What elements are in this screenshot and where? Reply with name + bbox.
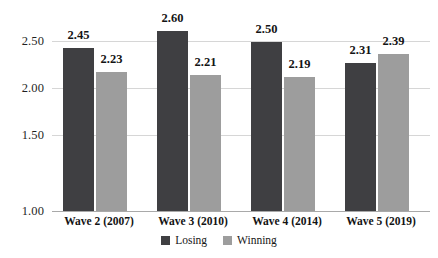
bar-losing-wave-4[interactable] bbox=[251, 42, 282, 211]
y-axis-tick-1-50: 1.50 bbox=[0, 129, 44, 142]
x-axis-label-wave-3: Wave 3 (2010) bbox=[146, 215, 240, 228]
bar-winning-wave-3[interactable] bbox=[190, 75, 221, 211]
legend-item-winning[interactable]: Winning bbox=[223, 234, 277, 246]
legend-label-losing: Losing bbox=[175, 234, 207, 246]
chart-legend: Losing Winning bbox=[0, 234, 438, 246]
bar-label-losing-wave-3: 2.60 bbox=[157, 12, 188, 25]
bar-winning-wave-5[interactable] bbox=[378, 54, 409, 211]
bar-label-winning-wave-4: 2.19 bbox=[284, 58, 315, 71]
y-axis-tick-2-50: 2.50 bbox=[0, 35, 44, 48]
bar-label-winning-wave-2: 2.23 bbox=[96, 53, 127, 66]
legend-label-winning: Winning bbox=[237, 234, 277, 246]
bar-losing-wave-2[interactable] bbox=[63, 48, 94, 211]
x-axis-label-wave-5: Wave 5 (2019) bbox=[334, 215, 428, 228]
y-axis-tick-2-00: 2.00 bbox=[0, 82, 44, 95]
bar-label-winning-wave-5: 2.39 bbox=[378, 35, 409, 48]
legend-swatch-losing-icon bbox=[161, 236, 170, 245]
bar-label-losing-wave-2: 2.45 bbox=[63, 29, 94, 42]
bar-winning-wave-4[interactable] bbox=[284, 77, 315, 211]
bar-winning-wave-2[interactable] bbox=[96, 72, 127, 211]
x-axis-label-wave-4: Wave 4 (2014) bbox=[240, 215, 334, 228]
bar-losing-wave-5[interactable] bbox=[345, 63, 376, 211]
legend-item-losing[interactable]: Losing bbox=[161, 234, 207, 246]
bar-chart: 2.50 2.00 1.50 1.00 2.45 2.23 2.60 2.21 … bbox=[0, 0, 438, 258]
x-axis-label-wave-2: Wave 2 (2007) bbox=[52, 215, 146, 228]
legend-swatch-winning-icon bbox=[223, 236, 232, 245]
bar-label-winning-wave-3: 2.21 bbox=[190, 56, 221, 69]
bar-label-losing-wave-5: 2.31 bbox=[345, 44, 376, 57]
bar-losing-wave-3[interactable] bbox=[157, 31, 188, 211]
y-axis-tick-1-00: 1.00 bbox=[0, 205, 44, 218]
bar-label-losing-wave-4: 2.50 bbox=[251, 23, 282, 36]
